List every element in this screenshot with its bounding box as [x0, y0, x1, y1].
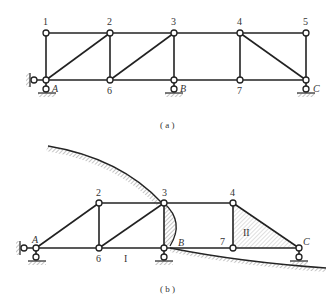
section-curve	[46, 146, 326, 272]
node-label-2b: 2	[96, 187, 101, 198]
caption-b: ( b )	[160, 284, 175, 294]
node-label-Bb: B	[178, 237, 184, 248]
node-label-4: 4	[237, 16, 242, 27]
node-label-2: 2	[107, 16, 112, 27]
node-label-7b: 7	[220, 236, 225, 247]
truss-diagram: 1 2 3 4 5 A 6 B 7 C ( a )	[0, 0, 336, 299]
node-label-7: 7	[237, 85, 242, 96]
region-label-two: II	[243, 227, 250, 238]
members-a	[34, 33, 306, 80]
node-label-Cb: C	[303, 236, 310, 247]
node-label-4b: 4	[230, 187, 235, 198]
figure-a: 1 2 3 4 5 A 6 B 7 C ( a )	[26, 16, 320, 130]
node-label-B: B	[180, 83, 186, 94]
node-label-6: 6	[107, 85, 112, 96]
node-label-A: A	[51, 83, 59, 94]
node-label-3b: 3	[162, 187, 167, 198]
node-label-6b: 6	[96, 253, 101, 264]
node-label-Ab: A	[31, 234, 39, 245]
node-label-5: 5	[303, 16, 308, 27]
node-label-C: C	[313, 83, 320, 94]
node-label-3: 3	[171, 16, 176, 27]
node-label-1: 1	[43, 16, 48, 27]
figure-b: 2 3 4 A 6 B 7 C I II ( b )	[16, 146, 326, 294]
caption-a: ( a )	[160, 120, 175, 130]
region-label-one: I	[124, 253, 127, 264]
nodes-a	[43, 30, 309, 83]
